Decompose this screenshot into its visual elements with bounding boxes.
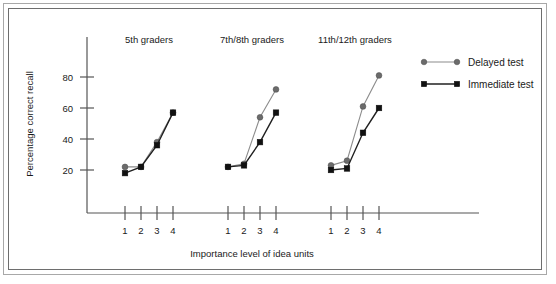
x-tick-label-g1-1: 1: [122, 225, 127, 236]
x-tick-label-g2-1: 1: [225, 225, 230, 236]
data-point-immediate-test-3: [154, 142, 160, 148]
data-point-immediate-test-1: [328, 167, 334, 173]
x-tick-label-g3-4: 4: [376, 225, 381, 236]
data-point-delayed-test-3: [257, 114, 263, 120]
x-tick-label-g2-4: 4: [273, 225, 278, 236]
legend-entry-delayed: Delayed test: [421, 57, 524, 68]
series-line-immediate-test: [331, 108, 379, 170]
series-layer: [122, 73, 382, 176]
y-tick-label-20: 20: [62, 165, 73, 176]
y-axis: 80 60 40 20 Percentage correct recall: [24, 37, 94, 213]
series-line-immediate-test: [125, 113, 173, 173]
x-axis: 1 2 3 4 1 2 3 4 1 2 3 4 Importance level…: [87, 206, 479, 259]
panel-title-11th-12th: 11th/12th graders: [318, 34, 392, 45]
y-axis-title: Percentage correct recall: [24, 71, 35, 177]
panel-titles: 5th graders 7th/8th graders 11th/12th gr…: [125, 34, 392, 45]
x-tick-label-g2-3: 3: [257, 225, 262, 236]
legend-marker-immediate-left: [421, 81, 426, 86]
panel-title-5th: 5th graders: [125, 34, 173, 45]
data-point-immediate-test-1: [122, 170, 128, 176]
panel-series-3: [328, 73, 382, 173]
y-tick-label-40: 40: [62, 134, 73, 145]
data-point-immediate-test-3: [257, 139, 263, 145]
line-chart: 80 60 40 20 Percentage correct recall: [9, 9, 545, 273]
figure-outer-frame: 80 60 40 20 Percentage correct recall: [3, 3, 547, 275]
data-point-immediate-test-3: [360, 130, 366, 136]
legend-label-immediate: Immediate test: [468, 79, 534, 90]
legend: Delayed test Immediate test: [421, 57, 534, 90]
legend-marker-delayed-right: [454, 59, 460, 65]
data-point-immediate-test-2: [241, 163, 247, 169]
y-tick-label-60: 60: [62, 103, 73, 114]
data-point-delayed-test-1: [122, 164, 128, 170]
data-point-delayed-test-3: [360, 104, 366, 110]
figure-inner-frame: 80 60 40 20 Percentage correct recall: [8, 8, 542, 270]
x-tick-label-g1-4: 4: [170, 225, 175, 236]
legend-entry-immediate: Immediate test: [421, 79, 534, 90]
legend-marker-delayed-left: [421, 59, 427, 65]
x-tick-label-g3-1: 1: [328, 225, 333, 236]
x-tick-label-g1-3: 3: [154, 225, 159, 236]
x-axis-title: Importance level of idea units: [190, 248, 314, 259]
panel-series-2: [225, 87, 279, 170]
legend-label-delayed: Delayed test: [468, 57, 524, 68]
panel-series-1: [122, 110, 176, 176]
data-point-immediate-test-2: [138, 164, 144, 170]
data-point-immediate-test-4: [376, 105, 382, 111]
data-point-immediate-test-1: [225, 164, 231, 170]
x-tick-label-g3-3: 3: [360, 225, 365, 236]
x-tick-label-g3-2: 2: [344, 225, 349, 236]
legend-marker-immediate-right: [454, 81, 459, 86]
panel-title-7th-8th: 7th/8th graders: [220, 34, 284, 45]
y-tick-label-80: 80: [62, 72, 73, 83]
data-point-delayed-test-4: [376, 73, 382, 79]
x-tick-label-g2-2: 2: [241, 225, 246, 236]
data-point-delayed-test-4: [273, 87, 279, 93]
series-line-delayed-test: [228, 89, 276, 166]
data-point-immediate-test-2: [344, 166, 350, 172]
series-line-delayed-test: [125, 113, 173, 167]
data-point-immediate-test-4: [170, 110, 176, 116]
data-point-immediate-test-4: [273, 110, 279, 116]
x-tick-label-g1-2: 2: [138, 225, 143, 236]
